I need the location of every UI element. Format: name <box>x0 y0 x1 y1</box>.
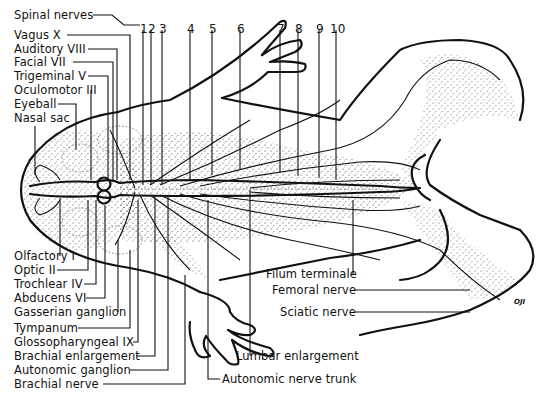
label-brachial-nerve: Brachial nerve <box>14 378 99 390</box>
artist-signature: OJI <box>514 298 525 306</box>
nerve-number-5: 5 <box>209 23 217 35</box>
label-vagus: Vagus X <box>14 29 61 41</box>
label-eyeball: Eyeball <box>14 98 57 110</box>
label-sciatic-nerve: Sciatic nerve <box>280 306 356 318</box>
nerve-number-3: 3 <box>159 23 167 35</box>
nerve-number-1: 1 <box>140 23 148 35</box>
nerve-number-7: 7 <box>277 23 285 35</box>
label-lumbar-enlargement: Lumbar enlargement <box>236 350 359 362</box>
label-tympanum: Tympanum <box>14 322 78 334</box>
label-brachial-enlargement: Brachial enlargement <box>14 350 140 362</box>
nerve-number-9: 9 <box>316 23 324 35</box>
label-femoral-nerve: Femoral nerve <box>272 284 356 296</box>
nerve-number-2: 2 <box>148 23 156 35</box>
label-glossopharyngeal: Glossopharyngeal IX <box>14 336 134 348</box>
label-filum-terminale: Filum terminale <box>266 268 357 280</box>
nerve-number-6: 6 <box>237 23 245 35</box>
nerve-number-10: 10 <box>330 23 345 35</box>
label-trochlear: Trochlear IV <box>14 278 83 290</box>
label-olfactory: Olfactory I <box>14 250 75 262</box>
label-oculomotor: Oculomotor III <box>14 84 97 96</box>
label-trigeminal: Trigeminal V <box>14 70 86 82</box>
nerve-number-4: 4 <box>187 23 195 35</box>
label-autonomic-ganglion: Autonomic ganglion <box>14 364 131 376</box>
label-optic: Optic II <box>14 264 56 276</box>
label-gasserian-ganglion: Gasserian ganglion <box>14 306 126 318</box>
label-facial: Facial VII <box>14 56 66 68</box>
nerve-number-8: 8 <box>295 23 303 35</box>
label-abducens: Abducens VI <box>14 292 86 304</box>
label-autonomic-nerve-trunk: Autonomic nerve trunk <box>222 373 357 385</box>
label-auditory: Auditory VIII <box>14 43 86 55</box>
label-nasal-sac: Nasal sac <box>14 112 70 124</box>
label-spinal-nerves: Spinal nerves <box>14 9 93 21</box>
